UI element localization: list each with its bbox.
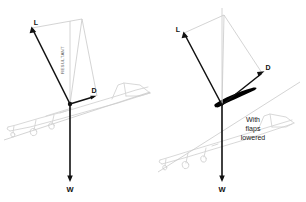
drag-label-left: D xyxy=(91,87,96,94)
drag-vector-clean xyxy=(70,96,97,104)
panel-flaps-lowered: L D W With flaps lowered xyxy=(158,8,300,194)
weight-label-left: W xyxy=(66,185,74,194)
weight-label-right: W xyxy=(218,185,226,194)
weight-vector-clean xyxy=(67,103,73,182)
caption-line-3: lowered xyxy=(241,134,266,141)
lowered-flap xyxy=(214,88,256,108)
drag-vector-flaps xyxy=(222,71,265,105)
lift-vector-flaps xyxy=(182,32,222,106)
panel-clean: RESULTANT L D W xyxy=(4,19,150,194)
drag-label-right: D xyxy=(265,64,270,71)
origin-point-left xyxy=(68,102,72,106)
resultant-label-left: RESULTANT xyxy=(60,46,65,74)
lift-label-left: L xyxy=(34,19,39,26)
aircraft-silhouette-clean xyxy=(7,83,150,137)
weight-vector-flaps xyxy=(219,104,225,182)
aircraft-silhouette-flaps xyxy=(159,114,294,170)
force-diagram-figure: RESULTANT L D W xyxy=(0,0,306,202)
caption-line-1: With xyxy=(246,116,260,123)
caption-line-2: flaps xyxy=(246,125,261,133)
lift-label-right: L xyxy=(176,26,181,33)
